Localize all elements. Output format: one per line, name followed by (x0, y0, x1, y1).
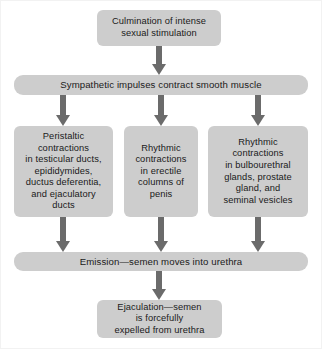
arrow-down-icon-peristaltic-to-emission (56, 217, 70, 252)
arrow-head (152, 289, 166, 300)
flow-node-sympathetic: Sympathetic impulses contract smooth mus… (14, 75, 308, 95)
arrow-down-icon-culmination-to-sympathetic (152, 46, 166, 75)
arrow-shaft (60, 95, 66, 116)
arrow-shaft (60, 217, 66, 242)
arrow-down-icon-sympathetic-to-bulbourethral (251, 95, 265, 126)
flow-node-sympathetic-label: Sympathetic impulses contract smooth mus… (18, 79, 304, 91)
arrow-shaft (158, 95, 164, 116)
arrow-down-icon-sympathetic-to-peristaltic (56, 95, 70, 126)
flow-node-erectile: Rhythmic contractions in erectile column… (124, 126, 198, 217)
arrow-shaft (255, 95, 261, 116)
flow-node-bulbourethral-label: Rhythmic contractions in bulbourethral g… (212, 137, 304, 207)
flow-node-emission: Emission—semen moves into urethra (14, 252, 308, 271)
flow-node-ejaculation: Ejaculation—semen is forcefully expelled… (97, 300, 222, 338)
flow-node-culmination-label: Culmination of intense sexual stimulatio… (101, 16, 217, 39)
flow-node-erectile-label: Rhythmic contractions in erectile column… (128, 143, 194, 201)
arrow-head (251, 115, 265, 126)
arrow-head (154, 115, 168, 126)
arrow-head (56, 241, 70, 252)
arrow-shaft (156, 271, 162, 290)
arrow-shaft (255, 217, 261, 242)
flow-node-culmination: Culmination of intense sexual stimulatio… (97, 10, 221, 46)
arrow-head (56, 115, 70, 126)
arrow-head (154, 241, 168, 252)
flow-node-bulbourethral: Rhythmic contractions in bulbourethral g… (208, 126, 308, 217)
flow-node-peristaltic: Peristaltic contractions in testicular d… (14, 126, 113, 217)
arrow-head (152, 64, 166, 75)
arrow-down-icon-bulbourethral-to-emission (251, 217, 265, 252)
flow-node-peristaltic-label: Peristaltic contractions in testicular d… (18, 131, 109, 212)
arrow-shaft (158, 217, 164, 242)
arrow-shaft (156, 46, 162, 65)
arrow-head (251, 241, 265, 252)
arrow-down-icon-sympathetic-to-erectile (154, 95, 168, 126)
flow-node-emission-label: Emission—semen moves into urethra (18, 256, 304, 268)
arrow-down-icon-erectile-to-emission (154, 217, 168, 252)
flowchart-diagram: Culmination of intense sexual stimulatio… (0, 0, 322, 349)
arrow-down-icon-emission-to-ejaculation (152, 271, 166, 300)
flow-node-ejaculation-label: Ejaculation—semen is forcefully expelled… (101, 302, 218, 337)
